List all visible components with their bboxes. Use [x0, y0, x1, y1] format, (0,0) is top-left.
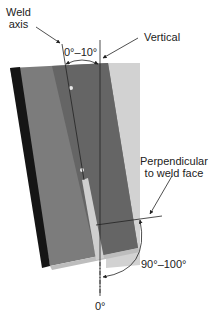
vertical-label: Vertical — [144, 31, 180, 43]
weld-axis-leader — [36, 27, 60, 43]
perpendicular-leader — [150, 176, 172, 214]
weld-axis-label-line2: axis — [6, 18, 31, 30]
perpendicular-label-line2: to weld face — [140, 167, 208, 179]
vertical-leader — [103, 38, 138, 58]
rotation-range-label: 90°–100° — [141, 258, 187, 270]
weld-axis-label: Weld axis — [6, 6, 31, 30]
zero-degree-label: 0° — [95, 300, 106, 312]
tilt-arc — [66, 60, 98, 64]
weld-axis-label-line1: Weld — [6, 6, 31, 18]
tilt-range-label: 0°–10° — [64, 46, 97, 58]
perpendicular-label: Perpendicular to weld face — [140, 155, 208, 179]
perpendicular-label-line1: Perpendicular — [140, 155, 208, 167]
